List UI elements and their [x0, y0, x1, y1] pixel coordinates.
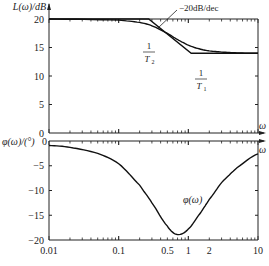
magnitude-ytick-20: 20	[34, 14, 44, 25]
phase-ytick-0: 0	[42, 136, 47, 147]
magnitude-curve	[49, 19, 258, 53]
t1-numerator: 1	[199, 68, 204, 78]
magnitude-ytick-15: 15	[34, 42, 44, 53]
xtick-0.01: 0.01	[40, 245, 58, 256]
phase-y-ticks	[49, 166, 258, 216]
breakpoint-t1-label: 1 T 1	[195, 68, 207, 92]
magnitude-y-ticks	[49, 48, 258, 105]
magnitude-ylabel-text: L(ω)/dB	[12, 1, 46, 13]
phase-ytick-minus20: −20	[28, 235, 44, 246]
asymptote-line	[49, 19, 258, 53]
phase-ytick-minus10: −10	[28, 185, 44, 196]
phase-plot: 0 −5 −10 −15 −20 φ(ω)/(°) ω 0.01 0.1 0.5…	[2, 136, 266, 257]
magnitude-y-arrow-icon	[47, 3, 51, 10]
magnitude-xlabel: ω	[259, 120, 266, 131]
phase-curve	[49, 146, 258, 235]
magnitude-x-arrow-icon	[259, 131, 266, 135]
xtick-1: 1	[186, 245, 191, 256]
phase-ylabel: φ(ω)/(°)	[2, 136, 35, 148]
xtick-0.5: 0.5	[161, 245, 174, 256]
magnitude-ytick-5: 5	[39, 99, 44, 110]
magnitude-ytick-10: 10	[34, 71, 44, 82]
phase-x-ticks	[49, 141, 258, 240]
t1-denominator: T	[196, 81, 202, 91]
phase-ytick-minus5: −5	[33, 160, 44, 171]
phase-ylabel-text: φ(ω)/(°)	[2, 136, 35, 148]
xtick-0.1: 0.1	[112, 245, 125, 256]
phase-ytick-minus15: −15	[28, 210, 44, 221]
xtick-10: 10	[253, 245, 263, 256]
t2-denominator: T	[144, 54, 150, 64]
t2-numerator: 1	[147, 41, 152, 51]
slope-annotation: −20dB/dec	[179, 3, 219, 13]
phase-x-arrow-icon	[259, 139, 266, 143]
xtick-2: 2	[207, 245, 212, 256]
t1-subscript: 1	[204, 86, 207, 92]
phase-xlabel: ω	[259, 144, 266, 155]
magnitude-x-ticks	[49, 19, 258, 133]
magnitude-plot: 20 15 10 5 0 L(ω)/dB ω −20dB/dec 1 T 2 1…	[12, 1, 266, 139]
bode-plot: 20 15 10 5 0 L(ω)/dB ω −20dB/dec 1 T 2 1…	[0, 0, 269, 266]
magnitude-ylabel: L(ω)/dB	[12, 1, 46, 13]
t2-subscript: 2	[152, 59, 155, 65]
breakpoint-t2-label: 1 T 2	[143, 41, 155, 65]
phase-curve-label: φ(ω)	[183, 194, 203, 206]
